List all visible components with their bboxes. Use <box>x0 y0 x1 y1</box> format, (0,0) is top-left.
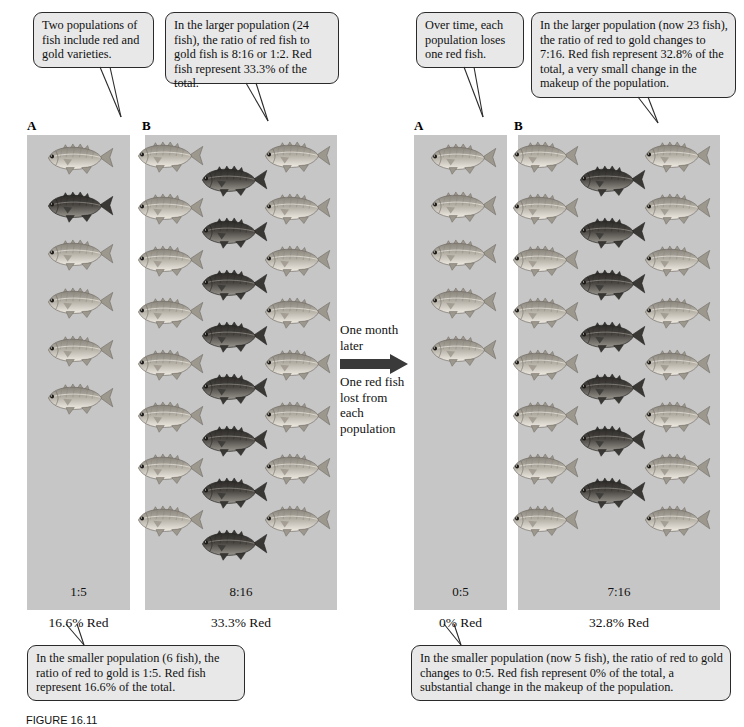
panel-letter-after-b: B <box>514 118 523 134</box>
callout-right-a: Over time, each population loses one red… <box>416 12 524 68</box>
fish-red <box>195 267 269 301</box>
callout-text: In the larger population (24 fish), the … <box>174 18 312 90</box>
callout-left-a: Two populations of fish include red and … <box>33 12 154 68</box>
percent-label-before-a: 16.6% Red <box>27 615 130 631</box>
panel-ratio-after-b: 7:16 <box>518 584 720 600</box>
fish-red <box>573 215 647 249</box>
callout-bottom-right: In the smaller population (now 5 fish), … <box>411 645 731 701</box>
fish-gold <box>41 285 115 319</box>
fish-red <box>195 215 269 249</box>
fish-red <box>573 163 647 197</box>
fish-gold <box>258 347 332 381</box>
fish-gold <box>638 347 712 381</box>
callout-left-b: In the larger population (24 fish), the … <box>165 12 339 84</box>
fish-gold <box>424 237 498 271</box>
fish-gold <box>258 295 332 329</box>
fish-gold <box>506 347 580 381</box>
transition-line2: One red fish lost from each population <box>340 374 414 436</box>
fish-gold <box>131 347 205 381</box>
figure-canvas: Two populations of fish include red and … <box>0 0 744 727</box>
callout-text: Over time, each population loses one red… <box>425 18 505 61</box>
fish-gold <box>638 451 712 485</box>
fish-gold <box>41 381 115 415</box>
fish-red <box>573 319 647 353</box>
transition-line2-text: One red fish lost from each population <box>340 374 404 436</box>
fish-gold <box>131 295 205 329</box>
fish-gold <box>131 451 205 485</box>
fish-red <box>195 475 269 509</box>
fish-gold <box>258 503 332 537</box>
fish-red <box>195 319 269 353</box>
fish-gold <box>506 503 580 537</box>
fish-gold <box>638 191 712 225</box>
fish-gold <box>258 451 332 485</box>
callout-text: In the larger population (now 23 fish), … <box>540 18 728 90</box>
panel-letter-after-a: A <box>414 118 423 134</box>
fish-gold <box>41 333 115 367</box>
panel-letter-before-b: B <box>142 118 151 134</box>
fish-gold <box>258 399 332 433</box>
fish-gold <box>506 399 580 433</box>
transition-line1: One month later <box>340 322 414 353</box>
fish-gold <box>638 295 712 329</box>
percent-label-after-b: 32.8% Red <box>518 615 720 631</box>
callout-left-b-tail <box>236 83 291 125</box>
transition-line1-text: One month later <box>340 322 398 353</box>
panel-after-a: 0:5 <box>414 135 507 610</box>
figure-caption: FIGURE 16.11 <box>26 714 97 726</box>
fish-gold <box>131 139 205 173</box>
fish-gold <box>638 503 712 537</box>
fish-gold <box>638 243 712 277</box>
fish-gold <box>41 237 115 271</box>
callout-text: In the smaller population (6 fish), the … <box>36 651 219 694</box>
fish-gold <box>131 399 205 433</box>
fish-gold <box>506 191 580 225</box>
fish-gold <box>424 141 498 175</box>
fish-gold <box>506 295 580 329</box>
fish-gold <box>506 139 580 173</box>
fish-gold <box>258 191 332 225</box>
fish-red <box>195 371 269 405</box>
percent-label-after-a: 0% Red <box>414 615 507 631</box>
fish-gold <box>131 243 205 277</box>
fish-red <box>195 163 269 197</box>
fish-gold <box>424 189 498 223</box>
fish-red <box>573 267 647 301</box>
callout-bottom-left: In the smaller population (6 fish), the … <box>27 645 245 701</box>
callout-right-a-tail <box>452 67 502 122</box>
fish-red <box>41 189 115 223</box>
fish-red <box>573 423 647 457</box>
fish-red <box>195 423 269 457</box>
fish-red <box>573 371 647 405</box>
fish-red <box>573 475 647 509</box>
callout-right-b-tail <box>630 97 680 127</box>
panel-ratio-before-a: 1:5 <box>27 584 130 600</box>
fish-gold <box>41 141 115 175</box>
fish-gold <box>424 285 498 319</box>
fish-gold <box>131 191 205 225</box>
callout-text: In the smaller population (now 5 fish), … <box>420 651 723 694</box>
fish-gold <box>424 333 498 367</box>
arrow-right-icon <box>340 353 410 375</box>
fish-red <box>195 527 269 561</box>
panel-before-b: 8:16 <box>145 135 337 610</box>
fish-gold <box>638 139 712 173</box>
fish-gold <box>258 139 332 173</box>
callout-right-b: In the larger population (now 23 fish), … <box>531 12 736 98</box>
percent-label-before-b: 33.3% Red <box>145 615 337 631</box>
callout-left-a-tail <box>88 67 138 122</box>
panel-after-b: 7:16 <box>518 135 720 610</box>
panel-before-a: 1:5 <box>27 135 130 610</box>
panel-ratio-after-a: 0:5 <box>414 584 507 600</box>
fish-gold <box>258 243 332 277</box>
callout-text: Two populations of fish include red and … <box>42 18 139 61</box>
panel-ratio-before-b: 8:16 <box>145 584 337 600</box>
fish-gold <box>638 399 712 433</box>
fish-gold <box>131 503 205 537</box>
fish-gold <box>506 451 580 485</box>
fish-gold <box>506 243 580 277</box>
panel-letter-before-a: A <box>27 118 36 134</box>
